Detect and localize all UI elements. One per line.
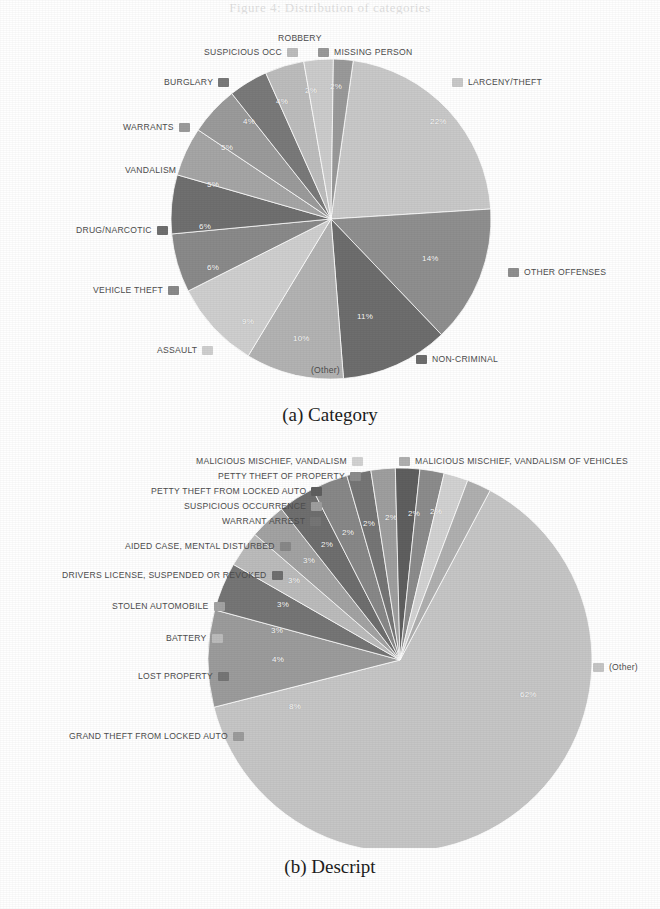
legend-swatch-suspicious-occ (287, 48, 298, 57)
legend-item-b-suspicious-occurrence[interactable]: SUSPICIOUS OCCURRENCE (184, 502, 322, 511)
slice-pct-b-other: 62% (520, 690, 537, 699)
legend-item-b-other[interactable]: (Other) (593, 663, 638, 672)
legend-label-b-drivers-license: DRIVERS LICENSE, SUSPENDED OR REVOKED (62, 571, 267, 580)
legend-swatch-b-other (593, 663, 604, 672)
legend-item-non-criminal[interactable]: NON-CRIMINAL (416, 355, 498, 364)
legend-label-b-battery: BATTERY (166, 634, 207, 643)
slice-pct-drug-narcotic: 6% (199, 222, 211, 231)
legend-label-b-warrant-arrest: WARRANT ARREST (222, 517, 305, 526)
figure-page: Figure 4: Distribution of categories 22%… (0, 0, 660, 909)
legend-swatch-b-stolen-automobile (214, 602, 225, 611)
legend-item-assault[interactable]: ASSAULT (157, 346, 213, 355)
slice-pct-burglary: 4% (243, 117, 255, 126)
legend-item-vehicle-theft[interactable]: VEHICLE THEFT (93, 286, 179, 295)
legend-label-b-grand-theft: GRAND THEFT FROM LOCKED AUTO (69, 732, 228, 741)
legend-swatch-burglary (218, 78, 229, 87)
legend-item-b-battery[interactable]: BATTERY (166, 634, 223, 643)
slice-pct-non-criminal: 11% (357, 312, 373, 321)
pie-chart-descript: 62% 8% 4% 3% 3% 3% 3% 2% 2% 2% 2% 2% 2% … (0, 448, 660, 848)
legend-item-b-petty-theft-property[interactable]: PETTY THEFT OF PROPERTY (218, 472, 361, 481)
legend-label-b-suspicious-occurrence: SUSPICIOUS OCCURRENCE (184, 502, 306, 511)
legend-label-b-malicious-vehicles: MALICIOUS MISCHIEF, VANDALISM OF VEHICLE… (415, 457, 628, 466)
legend-swatch-warrants (179, 123, 190, 132)
category-pie-svg (0, 14, 660, 414)
legend-swatch-b-malicious-vehicles (399, 457, 410, 466)
slice-pct-b-aided-case: 3% (303, 556, 315, 565)
slice-pct-larceny: 22% (430, 117, 447, 126)
slice-pct-b-battery: 3% (271, 626, 283, 635)
legend-label-suspicious-occ: SUSPICIOUS OCC (204, 48, 282, 57)
legend-swatch-b-petty-theft-property (350, 472, 361, 481)
legend-swatch-drug-narcotic (157, 226, 168, 235)
caption-category: (a) Category (0, 404, 660, 426)
slice-pct-other-offenses: 14% (422, 254, 439, 263)
legend-item-b-drivers-license[interactable]: DRIVERS LICENSE, SUSPENDED OR REVOKED (62, 571, 283, 580)
legend-swatch-b-grand-theft (233, 732, 244, 741)
legend-label-non-criminal: NON-CRIMINAL (432, 355, 498, 364)
legend-item-missing-person[interactable]: MISSING PERSON (318, 48, 412, 57)
legend-label-vandalism: VANDALISM (125, 166, 176, 175)
slice-pct-b-malicious-vehicles: 2% (430, 507, 442, 516)
legend-label-missing-person: MISSING PERSON (334, 48, 412, 57)
slice-pct-b-malicious-vandalism: 2% (408, 509, 420, 518)
legend-swatch-missing-person (318, 48, 329, 57)
legend-label-larceny-theft: LARCENY/THEFT (468, 78, 542, 87)
legend-label-b-malicious-vandalism: MALICIOUS MISCHIEF, VANDALISM (196, 457, 347, 466)
legend-item-b-warrant-arrest[interactable]: WARRANT ARREST (222, 517, 321, 526)
slice-pct-missing-person: 2% (330, 82, 342, 91)
legend-item-b-grand-theft[interactable]: GRAND THEFT FROM LOCKED AUTO (69, 732, 244, 741)
caption-descript: (b) Descript (0, 856, 660, 878)
legend-swatch-vandalism (181, 166, 192, 175)
slice-pct-b-lost-property: 4% (272, 655, 284, 664)
slice-pct-b-petty-theft-property: 2% (385, 513, 397, 522)
legend-item-b-lost-property[interactable]: LOST PROPERTY (138, 672, 229, 681)
legend-label-assault: ASSAULT (157, 346, 197, 355)
legend-item-warrants[interactable]: WARRANTS (123, 123, 190, 132)
legend-swatch-b-suspicious-occurrence (311, 502, 322, 511)
legend-item-b-petty-theft-locked[interactable]: PETTY THEFT FROM LOCKED AUTO (151, 487, 322, 496)
descript-pie-svg (0, 448, 660, 848)
legend-label-b-other: (Other) (609, 663, 638, 672)
slice-pct-b-warrant-arrest: 2% (321, 540, 333, 549)
slice-pct-b-grand-theft: 8% (289, 702, 301, 711)
slice-pct-b-drivers-license: 3% (288, 576, 300, 585)
legend-label-b-petty-theft-property: PETTY THEFT OF PROPERTY (218, 472, 345, 481)
legend-label-burglary: BURGLARY (164, 78, 213, 87)
legend-swatch-assault (202, 346, 213, 355)
legend-label-warrants: WARRANTS (123, 123, 174, 132)
cropped-figure-title: Figure 4: Distribution of categories (0, 0, 660, 14)
legend-item-vandalism[interactable]: VANDALISM (125, 166, 192, 175)
legend-label-other-category: (Other) (311, 366, 340, 375)
legend-item-b-malicious-vehicles[interactable]: MALICIOUS MISCHIEF, VANDALISM OF VEHICLE… (399, 457, 628, 466)
legend-swatch-b-lost-property (218, 672, 229, 681)
legend-swatch-vehicle-theft (168, 286, 179, 295)
legend-item-other-category[interactable]: (Other) (295, 366, 340, 375)
legend-label-b-lost-property: LOST PROPERTY (138, 672, 213, 681)
legend-swatch-b-drivers-license (272, 571, 283, 580)
slice-pct-assault: 9% (242, 317, 254, 326)
slice-pct-b-stolen-automobile: 3% (277, 600, 289, 609)
slice-pct-warrants: 5% (221, 143, 233, 152)
slice-pct-robbery: 2% (305, 86, 317, 95)
legend-swatch-b-battery (212, 634, 223, 643)
legend-item-larceny-theft[interactable]: LARCENY/THEFT (452, 78, 542, 87)
legend-swatch-b-warrant-arrest (310, 517, 321, 526)
pie-chart-category: 22% 14% 11% 10% 9% 6% 6% 5% 5% 4% 4% 2% … (0, 14, 660, 414)
legend-item-suspicious-occ[interactable]: SUSPICIOUS OCC (204, 48, 298, 57)
legend-item-b-aided-case[interactable]: AIDED CASE, MENTAL DISTURBED (125, 542, 291, 551)
slice-pct-other: 10% (293, 334, 310, 343)
legend-item-drug-narcotic[interactable]: DRUG/NARCOTIC (76, 226, 168, 235)
legend-swatch-b-petty-theft-locked (311, 487, 322, 496)
legend-swatch-non-criminal (416, 355, 427, 364)
legend-label-vehicle-theft: VEHICLE THEFT (93, 286, 163, 295)
legend-item-burglary[interactable]: BURGLARY (164, 78, 229, 87)
slice-pct-b-petty-theft-locked: 2% (363, 519, 375, 528)
legend-label-robbery: ROBBERY (278, 34, 322, 43)
legend-item-b-malicious-vandalism[interactable]: MALICIOUS MISCHIEF, VANDALISM (196, 457, 363, 466)
legend-label-b-petty-theft-locked: PETTY THEFT FROM LOCKED AUTO (151, 487, 306, 496)
slice-pct-vehicle-theft: 6% (207, 263, 219, 272)
legend-swatch-larceny-theft (452, 78, 463, 87)
legend-item-robbery[interactable]: ROBBERY (278, 34, 322, 43)
legend-item-b-stolen-automobile[interactable]: STOLEN AUTOMOBILE (112, 602, 225, 611)
legend-item-other-offenses[interactable]: OTHER OFFENSES (508, 268, 606, 277)
